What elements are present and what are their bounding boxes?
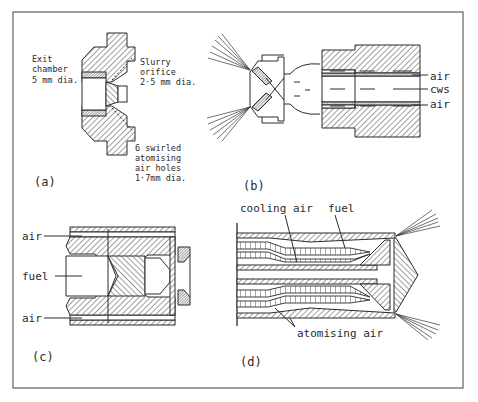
label-d-fuel: fuel: [328, 202, 355, 215]
slurry-orifice: [118, 86, 127, 102]
label-slurry-orifice-1: Slurry: [140, 57, 171, 67]
centre-tube-upper: [237, 265, 377, 270]
exit-chamber-liner-top: [82, 72, 106, 78]
exit-chamber-liner-bottom: [82, 110, 106, 116]
panel-b: air cws air (b): [207, 34, 450, 193]
outer-sleeve-bottom: [70, 320, 175, 325]
spray-fan-d-top: [396, 210, 440, 236]
label-d-cooling-air: cooling air: [240, 202, 313, 215]
label-swirl-holes-4: 1·7mm dia.: [135, 173, 186, 183]
spray-fan-d-bottom: [396, 314, 440, 340]
panel-a: Exit chamber 5 mm dia. Slurry orifice 2·…: [32, 33, 196, 189]
label-c-air-top: air: [22, 230, 42, 243]
fuel-channel-lower-1: [237, 286, 370, 297]
panel-d: cooling air fuel atomising air (d): [237, 202, 440, 369]
nozzle-cap: [250, 57, 284, 121]
label-exit-chamber-3: 5 mm dia.: [32, 75, 78, 85]
slurry-orifice-insert: [106, 82, 118, 106]
label-swirl-holes-2: atomising: [135, 153, 181, 163]
label-slurry-orifice-3: 2·5 mm dia.: [140, 77, 196, 87]
exit-cap-lower: [178, 290, 190, 305]
label-d-atomising-air: atomising air: [297, 327, 383, 340]
spray-fan-bottom: [207, 107, 250, 141]
label-c-fuel: fuel: [22, 270, 49, 283]
fuel-channel-lower-2: [237, 296, 370, 307]
label-exit-chamber-1: Exit: [32, 54, 52, 64]
atomiser-figure: Exit chamber 5 mm dia. Slurry orifice 2·…: [0, 0, 478, 402]
outer-sleeve-top: [70, 227, 175, 232]
centre-tube-lower: [237, 279, 377, 284]
panel-d-tag: (d): [240, 355, 262, 369]
panel-a-tag: (a): [34, 175, 56, 189]
swirl-chamber: [145, 258, 170, 294]
label-exit-chamber-2: chamber: [32, 64, 68, 74]
label-swirl-holes-1: 6 swirled: [135, 143, 181, 153]
label-slurry-orifice-2: orifice: [140, 67, 176, 77]
tip-lower-wedge: [360, 284, 390, 310]
panel-c: air fuel air (c): [22, 227, 190, 364]
atomiser-body-lower: [322, 105, 420, 137]
label-b-air-top: air: [430, 70, 450, 83]
label-swirl-holes-3: air holes: [135, 163, 181, 173]
label-b-air-bottom: air: [430, 98, 450, 111]
exit-cap-upper: [178, 247, 190, 262]
spray-fan-top: [208, 34, 250, 70]
exit-chamber-bore: [82, 78, 106, 110]
panel-c-tag: (c): [32, 350, 54, 364]
atomiser-body-upper: [322, 45, 420, 73]
label-c-air-bottom: air: [22, 312, 42, 325]
outer-wall-bottom: [237, 308, 395, 318]
outer-wall-top: [237, 233, 395, 242]
tip-deflector: [394, 238, 418, 312]
label-b-cws: cws: [430, 83, 450, 96]
panel-b-tag: (b): [243, 179, 265, 193]
